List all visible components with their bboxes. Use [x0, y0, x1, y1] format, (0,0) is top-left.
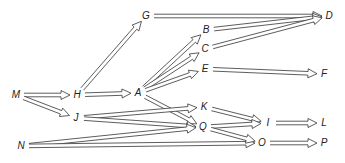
- arrow-m-to-h: [24, 91, 70, 100]
- node-n: N: [17, 141, 24, 151]
- node-i: I: [267, 118, 270, 128]
- node-g: G: [142, 11, 150, 21]
- node-e: E: [202, 64, 209, 74]
- arrow-q-to-o: [210, 127, 255, 143]
- arrow-q-to-i: [211, 120, 261, 129]
- node-o: O: [258, 138, 266, 148]
- node-j: J: [74, 113, 79, 123]
- node-a: A: [135, 88, 142, 98]
- arrow-o-to-p: [270, 139, 317, 148]
- node-c: C: [201, 44, 208, 54]
- arrow-m-to-j: [23, 96, 70, 116]
- network-diagram: [0, 0, 345, 163]
- arrow-c-to-d: [212, 16, 322, 49]
- node-h: H: [73, 90, 80, 100]
- arrow-h-to-g: [81, 21, 141, 90]
- node-d: D: [325, 11, 332, 21]
- arrow-e-to-f: [213, 68, 317, 78]
- arrow-i-to-l: [276, 119, 317, 128]
- node-k: K: [201, 102, 208, 112]
- arrow-h-to-a: [85, 89, 131, 98]
- node-b: B: [203, 25, 210, 35]
- node-l: L: [321, 118, 327, 128]
- node-f: F: [321, 69, 327, 79]
- node-p: P: [321, 138, 328, 148]
- node-q: Q: [199, 122, 207, 132]
- node-m: M: [12, 90, 20, 100]
